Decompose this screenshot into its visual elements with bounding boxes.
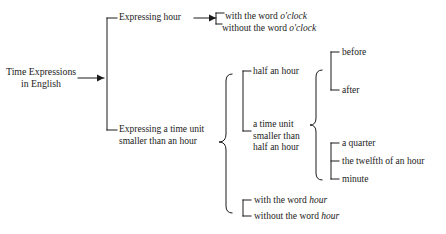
leaf-without-the-word-hour: without the word hour: [254, 211, 339, 223]
right-curly-brace: [310, 70, 322, 180]
node-half-an-hour: half an hour: [253, 66, 299, 78]
leaf-the-twelfth-of-an-hour: the twelfth of an hour: [342, 156, 424, 168]
node-time-unit-line1: a time unit: [253, 119, 300, 131]
leaf-with-the-word-oclock: with the word o'clock: [225, 11, 307, 23]
node-time-unit-line2: smaller than: [253, 131, 300, 143]
leaf-without-hour-prefix: without the word: [254, 211, 321, 221]
branch-smaller-line2: smaller than an hour: [119, 136, 204, 148]
root-arrow-head: [97, 75, 104, 82]
leaf-a-quarter: a quarter: [342, 138, 376, 150]
leaf-without-hour-emphasis: hour: [321, 211, 339, 221]
leaf-after: after: [342, 85, 359, 97]
leaf-with-oclock-emphasis: o'clock: [280, 11, 307, 21]
branch-expressing-hour-label: Expressing hour: [119, 12, 181, 24]
node-time-unit-line3: half an hour: [253, 142, 300, 154]
node-time-unit-smaller-than-half-an-hour: a time unit smaller than half an hour: [253, 119, 300, 154]
leaf-with-hour-prefix: with the word: [254, 195, 309, 205]
time-unit-curly-brace: [219, 74, 232, 213]
time-expressions-diagram: Time Expressions in English Expressing h…: [0, 0, 446, 234]
leaf-without-the-word-oclock: without the word o'clock: [222, 23, 316, 35]
leaf-before: before: [342, 47, 366, 59]
root-label-line2: in English: [6, 78, 76, 90]
branch-smaller-line1: Expressing a time unit: [119, 124, 204, 136]
leaf-with-oclock-prefix: with the word: [225, 11, 280, 21]
leaf-without-oclock-prefix: without the word: [222, 23, 289, 33]
leaf-with-the-word-hour: with the word hour: [254, 195, 327, 207]
root-label-line1: Time Expressions: [6, 66, 76, 78]
expressing-hour-arrow-head: [209, 15, 216, 22]
diagram-connectors: [0, 0, 446, 234]
root-node: Time Expressions in English: [6, 66, 76, 89]
leaf-without-oclock-emphasis: o'clock: [289, 23, 316, 33]
leaf-minute: minute: [342, 174, 368, 186]
branch-smaller-than-hour-label: Expressing a time unit smaller than an h…: [119, 124, 204, 147]
leaf-with-hour-emphasis: hour: [309, 195, 327, 205]
